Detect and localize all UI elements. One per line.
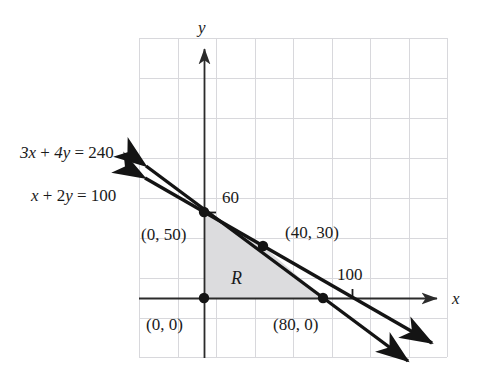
point-label-0-50: (0, 50): [141, 225, 186, 244]
point-marker-0-50: [199, 207, 209, 217]
equation-label-3x-4y-240: 3x + 4y = 240: [19, 143, 114, 162]
region-label-r: R: [230, 268, 242, 288]
point-marker-origin: [199, 293, 209, 303]
y-axis-label: y: [196, 18, 206, 37]
point-marker-40-30: [258, 241, 268, 251]
point-label-40-30: (40, 30): [285, 223, 339, 242]
x-axis-label: x: [451, 289, 460, 308]
tick-label-60: 60: [222, 188, 239, 207]
point-marker-80-0: [318, 293, 328, 303]
equation-label-x-2y-100: x + 2y = 100: [30, 186, 116, 205]
point-label-80-0: (80, 0): [273, 315, 318, 334]
point-label-origin: (0, 0): [146, 315, 183, 334]
graph-figure: 3x + 4y = 240 x + 2y = 100 60 100 (0, 50…: [0, 0, 480, 383]
tick-label-100: 100: [337, 265, 363, 284]
